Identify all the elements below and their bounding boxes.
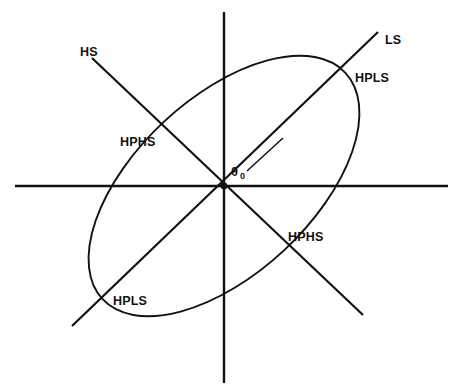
theta-symbol-label: θ <box>231 164 238 179</box>
label-ls: LS <box>385 33 401 47</box>
origin-point <box>221 183 228 190</box>
label-hs: HS <box>80 45 98 59</box>
label-hphs-lower-right: HPHS <box>288 230 324 244</box>
label-hpls-lower-left: HPLS <box>113 294 147 308</box>
label-hphs-upper-left: HPHS <box>120 135 156 149</box>
geometric-diagram-svg: θ 0 HS LS HPLS HPHS HPHS HPLS <box>0 0 459 390</box>
diagram-canvas: θ 0 HS LS HPLS HPHS HPHS HPLS <box>0 0 459 390</box>
canvas-background <box>0 0 459 390</box>
label-hpls-upper-right: HPLS <box>355 71 389 85</box>
theta-subscript-label: 0 <box>240 171 245 181</box>
